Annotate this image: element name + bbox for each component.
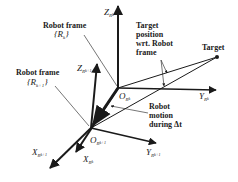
y-rk-label: YRk <box>199 92 209 104</box>
robot-motion-label-1: Robot <box>149 103 170 111</box>
z-rk1-label: ZRk+1 <box>77 64 92 76</box>
y-axis-rk <box>118 88 216 90</box>
x-rk1-label: XRk+1 <box>32 148 47 160</box>
z-rk-label: ZRk <box>104 8 114 20</box>
x-rk-label: XRk <box>83 155 93 167</box>
robot-motion-label-3: during Δt <box>149 121 182 129</box>
target-position-label-4: frame <box>136 49 156 57</box>
leader-robot-frame-k1 <box>55 86 89 126</box>
leader-robot-frame-k <box>84 35 117 86</box>
leader-robot-motion <box>111 106 148 113</box>
robot-frame-k-symbol: {Rk} <box>54 30 69 42</box>
robot-frame-k1-title: Robot frame <box>16 69 59 77</box>
y-rk1-label: YRk+1 <box>146 148 161 160</box>
origin-rk-label: ORk <box>119 92 130 104</box>
robot-frame-k1-symbol: {Rk+1} <box>27 78 48 90</box>
target-position-label-1: Target <box>136 22 158 30</box>
target-point <box>215 55 219 59</box>
target-label: Target <box>202 44 224 52</box>
target-vector-rk <box>118 57 217 88</box>
robot-motion-label-2: motion <box>149 112 173 120</box>
target-position-label-3: wrt. Robot <box>136 40 173 48</box>
origin-rk1-label: ORk+1 <box>90 136 106 148</box>
target-position-label-2: position <box>136 31 163 39</box>
